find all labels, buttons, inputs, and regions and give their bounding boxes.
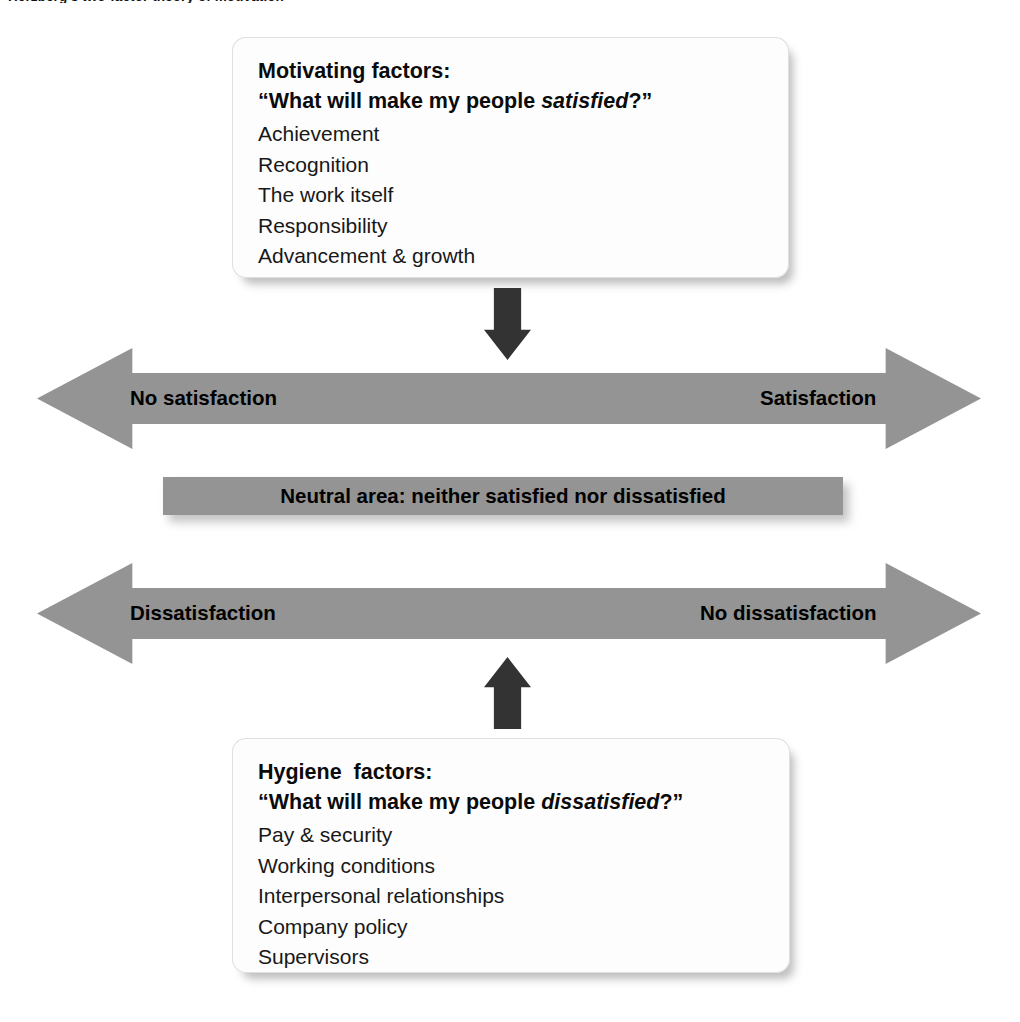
list-item: Pay & security xyxy=(258,820,764,851)
list-item: Responsibility xyxy=(258,211,763,242)
list-item: Working conditions xyxy=(258,851,764,882)
motivating-question-emphasis: satisfied xyxy=(541,89,628,113)
motivating-question-prefix: “What will make my people xyxy=(258,89,541,113)
motivating-factors-heading: Motivating factors: xyxy=(258,57,763,86)
list-item: Company policy xyxy=(258,912,764,943)
list-item: Supervisors xyxy=(258,942,764,973)
motivating-factors-list: Achievement Recognition The work itself … xyxy=(258,119,763,272)
motivating-factors-box: Motivating factors: “What will make my p… xyxy=(232,37,789,278)
arrow-up-icon xyxy=(484,657,531,729)
list-item: Recognition xyxy=(258,150,763,181)
list-item: Achievement xyxy=(258,119,763,150)
dissatisfaction-axis-left-label: Dissatisfaction xyxy=(130,603,276,624)
hygiene-factors-list: Pay & security Working conditions Interp… xyxy=(258,820,764,973)
list-item: Advancement & growth xyxy=(258,241,763,272)
hygiene-factors-heading: Hygiene factors: xyxy=(258,758,764,787)
satisfaction-axis-left-label: No satisfaction xyxy=(130,388,277,409)
hygiene-factors-question: “What will make my people dissatisfied?” xyxy=(258,787,764,817)
figure-caption-clipped: Herzberg's two-factor theory of motivati… xyxy=(8,0,908,3)
diagram-canvas: Herzberg's two-factor theory of motivati… xyxy=(0,0,1020,1022)
neutral-area-label: Neutral area: neither satisfied nor diss… xyxy=(163,477,843,515)
list-item: The work itself xyxy=(258,180,763,211)
list-item: Interpersonal relationships xyxy=(258,881,764,912)
hygiene-question-emphasis: dissatisfied xyxy=(541,790,659,814)
motivating-factors-question: “What will make my people satisfied?” xyxy=(258,86,763,116)
motivating-question-suffix: ?” xyxy=(628,89,652,113)
hygiene-question-suffix: ?” xyxy=(659,790,683,814)
satisfaction-axis-right-label: Satisfaction xyxy=(760,388,876,409)
arrow-down-icon xyxy=(484,288,531,360)
hygiene-question-prefix: “What will make my people xyxy=(258,790,541,814)
hygiene-factors-box: Hygiene factors: “What will make my peop… xyxy=(232,738,790,973)
dissatisfaction-axis-right-label: No dissatisfaction xyxy=(700,603,877,624)
